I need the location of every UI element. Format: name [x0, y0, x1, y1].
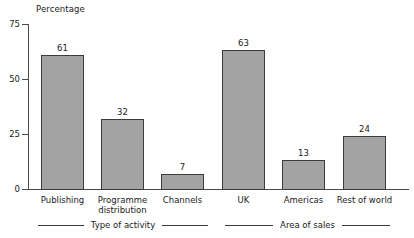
group-label-area-of-sales: Area of sales [278, 220, 337, 230]
group-bracket-type-of-activity: Type of activity [38, 218, 208, 232]
bar-value-uk: 63 [222, 38, 265, 48]
bar-uk [222, 50, 265, 190]
bar-americas [282, 160, 325, 190]
y-tick-25: 25 [0, 129, 20, 139]
y-tick-mark-50 [22, 79, 29, 80]
bar-value-rest-of-world: 24 [343, 124, 386, 134]
y-tick-label-0: 0 [15, 184, 20, 194]
bar-value-americas: 13 [282, 148, 325, 158]
y-tick-50: 50 [0, 74, 20, 84]
bar-value-programme-distribution: 32 [101, 107, 144, 117]
group-label-type-of-activity: Type of activity [89, 220, 157, 230]
x-label-programme-distribution-line2: distribution [86, 205, 159, 215]
x-label-rest-of-world: Rest of world [328, 195, 401, 205]
bar-value-channels: 7 [161, 162, 204, 172]
y-tick-label-50: 50 [9, 74, 20, 84]
group-rule-left-type-of-activity [38, 225, 84, 226]
y-tick-0: 0 [0, 184, 20, 194]
bar-rest-of-world [343, 136, 386, 190]
group-rule-right-area-of-sales [342, 225, 390, 226]
group-rule-right-type-of-activity [162, 225, 208, 226]
y-tick-mark-75 [22, 24, 29, 25]
bar-programme-distribution [101, 119, 144, 190]
x-label-rest-of-world-line1: Rest of world [328, 195, 401, 205]
group-bracket-area-of-sales: Area of sales [225, 218, 390, 232]
bar-channels [161, 174, 204, 190]
bar-chart: Percentage 75 50 25 0 61 32 7 63 13 24 P… [0, 0, 414, 238]
y-tick-mark-0 [22, 189, 29, 190]
group-rule-left-area-of-sales [225, 225, 273, 226]
y-tick-75: 75 [0, 19, 20, 29]
bar-publishing [41, 55, 84, 190]
y-tick-label-75: 75 [9, 19, 20, 29]
y-tick-label-25: 25 [9, 129, 20, 139]
y-axis-line [28, 24, 29, 190]
y-tick-mark-25 [22, 134, 29, 135]
y-axis-title: Percentage [36, 4, 85, 14]
bar-value-publishing: 61 [41, 43, 84, 53]
